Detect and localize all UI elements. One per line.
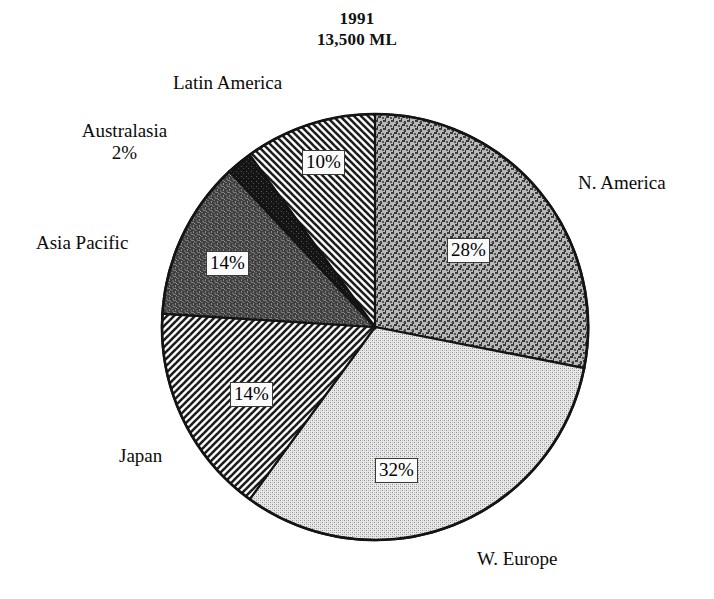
slice-label-australasia: Australasia — [52, 120, 197, 142]
slice-label-australasia-group: Australasia 2% — [52, 120, 197, 164]
pie-svg — [0, 0, 714, 599]
slice-label-w-europe: W. Europe — [477, 548, 558, 570]
slice-label-n-america: N. America — [578, 172, 666, 194]
slice-value-n-america: 28% — [447, 238, 490, 263]
slice-value-japan: 14% — [230, 382, 273, 407]
slice-value-australasia: 2% — [52, 142, 197, 164]
pie-graphic — [0, 0, 714, 599]
slice-value-w-europe: 32% — [375, 458, 418, 483]
pie-chart-figure: 1991 13,500 ML — [0, 0, 714, 599]
slice-label-asia-pacific: Asia Pacific — [36, 232, 128, 254]
slice-label-latin-america: Latin America — [173, 72, 282, 94]
slice-label-japan: Japan — [119, 445, 162, 467]
slice-value-latin-america: 10% — [302, 150, 345, 175]
slice-value-asia-pacific: 14% — [206, 251, 249, 276]
